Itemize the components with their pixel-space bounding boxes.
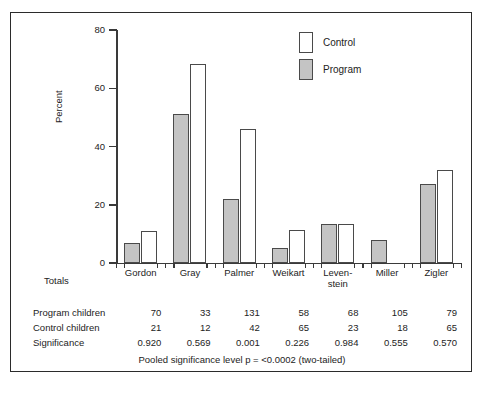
x-axis-category-label: Palmer [215,267,264,278]
y-axis-tick-label: 80 [77,25,105,35]
table-row: Program children7033131586810579 [25,305,465,320]
legend-item-control: Control [299,29,419,56]
data-table: Program children7033131586810579Control … [25,305,465,350]
table-row-label: Significance [33,335,84,350]
legend-swatch-control-icon [299,32,313,53]
table-row-label: Program children [33,305,105,320]
y-axis-tick-label: 40 [77,142,105,152]
y-axis-tick-label-wrap: 40 [73,142,105,152]
y-axis-title: Percent [53,90,64,123]
footer-note: Pooled significance level p = <0.0002 (t… [11,354,473,365]
bar-control [338,224,354,263]
bar-program [420,184,436,263]
bar-program [272,248,288,263]
bar-program [124,243,140,263]
table-cell: 18 [362,320,407,335]
table-cell: 0.570 [412,335,457,350]
bar-control [141,231,157,263]
x-axis-category-label: Leven-stein [313,267,362,289]
table-cell: 42 [215,320,260,335]
table-cell: 79 [412,305,457,320]
y-axis-tick-label: 60 [77,83,105,93]
table-cell: 70 [116,305,161,320]
table-row: Significance0.9200.5690.0010.2260.9840.5… [25,335,465,350]
table-cell: 65 [264,320,309,335]
table-cell: 0.569 [165,335,210,350]
bar-control [437,170,453,263]
bar-control [289,230,305,263]
legend-item-program: Program [299,56,419,83]
chart-legend: Control Program [299,29,419,83]
y-axis-tick-label-wrap: 60 [73,83,105,93]
legend-swatch-program-icon [299,59,313,80]
plot-area: 020406080 Percent GordonGrayPalmerWeikar… [11,13,473,273]
table-cell: 21 [116,320,161,335]
bar-control [240,129,256,263]
table-cell: 0.001 [215,335,260,350]
bar-control [190,64,206,264]
bar-program [321,224,337,263]
bar-group [223,30,256,263]
table-row-label: Control children [33,320,100,335]
x-axis-category-label: Gordon [116,267,165,278]
x-axis-category-label: Miller [362,267,411,278]
totals-label: Totals [44,275,69,286]
table-cell: 0.226 [264,335,309,350]
y-axis-tick-label-wrap: 80 [73,25,105,35]
legend-label-program: Program [323,64,361,75]
table-cell: 68 [313,305,358,320]
y-axis-tick-label-wrap: 20 [73,200,105,210]
table-cell: 0.920 [116,335,161,350]
x-axis-category-label: Gray [165,267,214,278]
table-cell: 0.555 [362,335,407,350]
bar-group [420,30,453,263]
y-axis-tick-label: 0 [77,258,105,268]
bar-group [124,30,157,263]
bar-group [173,30,206,263]
x-axis-category-label: Weikart [264,267,313,278]
bar-program [371,240,387,263]
table-cell: 131 [215,305,260,320]
x-axis-category-label: Zigler [412,267,461,278]
bar-program [173,114,189,263]
y-axis-tick-label-wrap: 0 [73,258,105,268]
table-cell: 58 [264,305,309,320]
table-cell: 105 [362,305,407,320]
table-cell: 12 [165,320,210,335]
table-cell: 65 [412,320,457,335]
bar-program [223,199,239,263]
figure-frame: 020406080 Percent GordonGrayPalmerWeikar… [10,12,472,372]
table-cell: 0.984 [313,335,358,350]
x-axis-category-labels: GordonGrayPalmerWeikartLeven-steinMiller… [116,267,461,297]
table-cell: 23 [313,320,358,335]
y-axis-tick-label: 20 [77,200,105,210]
x-axis-tick [461,263,462,268]
table-cell: 33 [165,305,210,320]
legend-label-control: Control [323,37,355,48]
table-row: Control children21124265231865 [25,320,465,335]
